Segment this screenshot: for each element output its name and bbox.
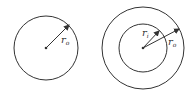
outer-radius-label: ro	[168, 36, 177, 48]
radius-diagram: ro ri ro	[0, 0, 196, 97]
annulus-figure: ri ro	[102, 7, 184, 89]
inner-radius-label: ri	[142, 27, 149, 39]
single-circle-figure: ro	[14, 16, 78, 80]
radius-label: ro	[61, 34, 70, 46]
